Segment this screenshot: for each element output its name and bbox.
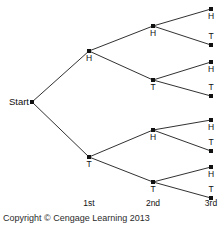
tree-edge-hh-to-hhh (153, 9, 211, 26)
tree-edge-h-to-hh (89, 26, 153, 51)
tree-edge-ht-to-htt (153, 80, 211, 96)
stage-label-2nd: 2nd (146, 198, 160, 208)
tree-edge-start-to-h (32, 51, 89, 102)
tree-node-label-tth: H (208, 169, 214, 179)
tree-node-start[interactable] (30, 100, 34, 104)
tree-node-label-tht: T (208, 137, 213, 147)
tree-node-label-tt: T (150, 184, 155, 194)
stage-label-3rd: 3rd (205, 198, 218, 208)
tree-node-htt[interactable] (209, 94, 213, 98)
start-label: Start (9, 96, 29, 107)
tree-node-label-ht: T (150, 82, 155, 92)
tree-node-label-hh: H (150, 28, 156, 38)
tree-node-hht[interactable] (209, 43, 213, 47)
tree-node-tht[interactable] (209, 149, 213, 153)
tree-node-label-hhh: H (208, 11, 214, 21)
stage-labels-group: 1st2nd3rd (83, 198, 217, 208)
tree-edge-hh-to-hht (153, 26, 211, 45)
tree-edge-tt-to-tth (153, 167, 211, 182)
tree-edge-ht-to-hth (153, 62, 211, 80)
tree-edge-th-to-thh (153, 120, 211, 130)
tree-edge-start-to-t (32, 102, 89, 157)
edges-group (32, 9, 211, 198)
tree-edge-th-to-tht (153, 130, 211, 151)
tree-edge-t-to-tt (89, 157, 153, 182)
nodes-group (30, 7, 213, 200)
tree-diagram-canvas: HTHTHTHTHTHTHT Start 1st2nd3rd Copyright… (0, 0, 224, 232)
tree-node-label-hht: T (208, 31, 213, 41)
node-labels-group: HTHTHTHTHTHTHT (86, 11, 214, 194)
tree-node-label-th: H (150, 132, 156, 142)
tree-node-label-ttt: T (208, 184, 213, 194)
tree-edge-tt-to-ttt (153, 182, 211, 198)
probability-tree-figure: HTHTHTHTHTHTHT Start 1st2nd3rd Copyright… (0, 0, 224, 232)
stage-label-1st: 1st (83, 198, 95, 208)
tree-node-label-t: T (86, 159, 91, 169)
tree-edge-h-to-ht (89, 51, 153, 80)
tree-node-label-h: H (86, 53, 92, 63)
tree-node-label-htt: T (208, 82, 213, 92)
copyright-notice: Copyright © Cengage Learning 2013 (3, 213, 150, 223)
tree-node-label-hth: H (208, 64, 214, 74)
tree-edge-t-to-th (89, 130, 153, 157)
tree-node-label-thh: H (208, 122, 214, 132)
